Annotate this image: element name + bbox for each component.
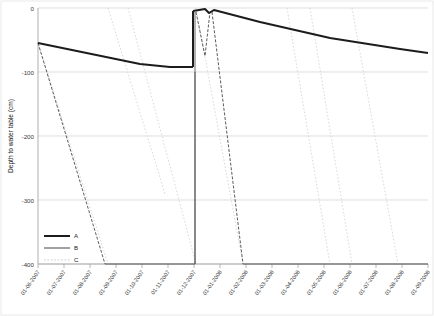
- y-tick-label-100: -100: [22, 69, 35, 76]
- chart-background: [0, 0, 434, 316]
- y-tick-label-200: -200: [22, 133, 35, 140]
- legend-label-b: B: [74, 244, 78, 251]
- y-axis-title: Depth to water table (cm): [7, 99, 15, 173]
- chart-container: 0 -100 -200 -300 -400 Depth to water tab…: [0, 0, 434, 316]
- water-table-depth-chart: 0 -100 -200 -300 -400 Depth to water tab…: [0, 0, 434, 316]
- y-tick-label-400: -400: [22, 261, 35, 268]
- y-tick-label-300: -300: [22, 197, 35, 204]
- y-tick-label-0: 0: [31, 5, 35, 12]
- legend-label-c: C: [74, 256, 79, 263]
